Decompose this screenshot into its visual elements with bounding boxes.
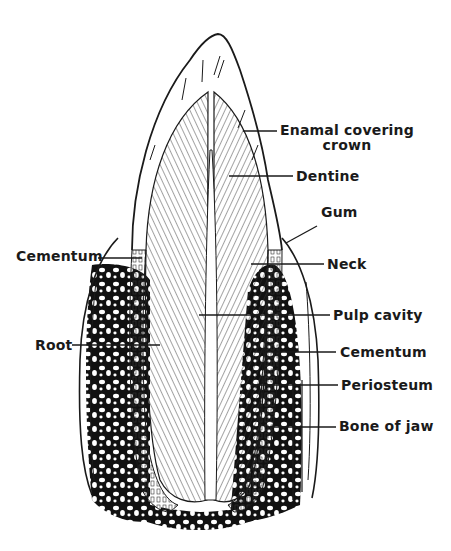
label-enamel-line2: crown (280, 138, 414, 153)
tooth-illustration (0, 0, 451, 551)
label-pulp-cavity: Pulp cavity (333, 308, 423, 323)
label-enamel-line1: Enamal covering (280, 123, 414, 138)
label-cementum-right: Cementum (340, 345, 427, 360)
label-root: Root (35, 338, 73, 353)
label-dentine: Dentine (296, 169, 359, 184)
label-cementum-left: Cementum (16, 249, 103, 264)
label-bone-of-jaw: Bone of jaw (339, 419, 434, 434)
label-enamel: Enamal covering crown (280, 123, 414, 153)
label-neck: Neck (327, 257, 367, 272)
label-periosteum: Periosteum (341, 378, 433, 393)
tooth-diagram: Enamal covering crown Dentine Gum Cement… (0, 0, 451, 551)
label-gum: Gum (321, 205, 358, 220)
